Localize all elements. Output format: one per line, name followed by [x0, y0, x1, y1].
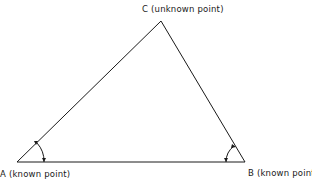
point-b-label: B (known point): [248, 168, 312, 178]
point-a-label: A (known point): [0, 169, 70, 179]
edge-b-c: [161, 21, 245, 162]
angle-arc-b-icon: [224, 144, 236, 162]
point-c-label: C (unknown point): [142, 4, 224, 14]
triangulation-diagram: [0, 0, 312, 184]
edge-a-c: [17, 21, 161, 162]
angle-arc-a-icon: [34, 141, 46, 162]
